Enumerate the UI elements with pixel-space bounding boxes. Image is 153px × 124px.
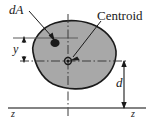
- y-dimension: [22, 37, 27, 63]
- centroid-label: Centroid: [97, 9, 143, 22]
- z-axis-label-left: z: [11, 109, 15, 119]
- dA-point-marker: [50, 39, 59, 47]
- z-axis-label-right: z: [131, 109, 135, 119]
- y-distance-label: y: [13, 43, 18, 55]
- d-distance-label: d: [116, 76, 123, 89]
- dA-label: dA: [9, 3, 23, 16]
- centroid-figure: dA Centroid y d z z: [0, 0, 153, 124]
